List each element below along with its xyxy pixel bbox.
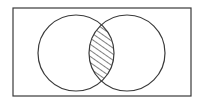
venn-svg	[0, 0, 200, 101]
venn-diagram	[0, 0, 200, 101]
